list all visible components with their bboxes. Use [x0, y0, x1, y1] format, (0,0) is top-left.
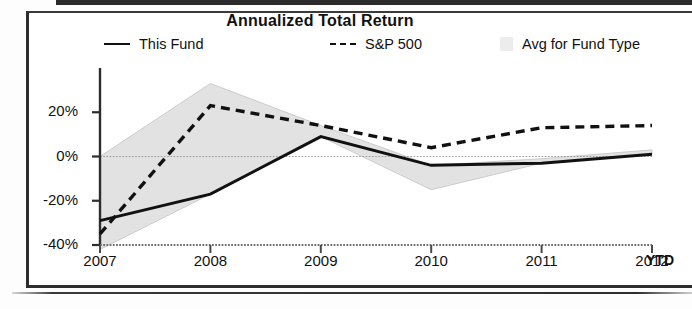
x-axis-label: 2009 — [286, 252, 356, 269]
x-axis-label: 2010 — [396, 252, 466, 269]
y-axis-label: 0% — [16, 147, 78, 164]
page-bottom-rule — [12, 292, 692, 294]
avg-band-shape — [100, 83, 652, 249]
x-axis-label: 2008 — [175, 252, 245, 269]
scanned-chart-page: Annualized Total Return This Fund S&P 50… — [0, 0, 692, 309]
x-axis-ytd-note: YTD — [646, 252, 674, 268]
x-axis-label: 2007 — [65, 252, 135, 269]
x-axis-label: 2011 — [507, 252, 577, 269]
y-axis-label: -20% — [16, 191, 78, 208]
plot-area: 20%0%-20%-40% 200720082009201020112012 Y… — [0, 0, 692, 309]
y-axis-label: -40% — [16, 235, 78, 252]
avg-fund-type-band — [100, 83, 652, 249]
y-axis-label: 20% — [16, 102, 78, 119]
